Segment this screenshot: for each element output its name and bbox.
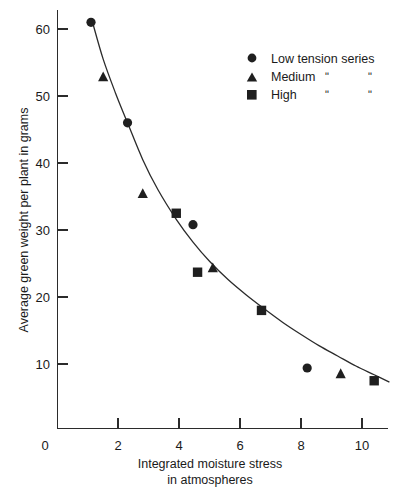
triangle-marker (138, 188, 148, 198)
y-axis-title: Average green weight per plant in grams (17, 108, 31, 333)
legend-triangle-marker (247, 72, 257, 81)
legend-ditto-high-2: ʺ (368, 88, 372, 100)
square-marker (257, 306, 266, 315)
series-1-markers (98, 72, 346, 379)
triangle-marker (208, 263, 218, 273)
legend-square-marker (247, 90, 257, 100)
x-axis-ticks (118, 418, 362, 429)
y-tick-label-60: 60 (36, 22, 50, 37)
legend-label-medium: Medium (271, 70, 315, 84)
triangle-marker (336, 368, 346, 378)
legend-circle-marker (248, 54, 257, 63)
x-axis-title-line2: in atmospheres (167, 473, 252, 487)
x-axis-title-line1: Integrated moisture stress (138, 457, 283, 471)
y-axis-ticks (58, 29, 69, 364)
series-2-markers (172, 209, 379, 386)
x-tick-label-0: 0 (41, 438, 48, 453)
circle-marker (123, 118, 132, 127)
circle-marker (303, 363, 312, 372)
data-markers-group (86, 18, 378, 386)
x-tick-label-4: 4 (175, 438, 182, 453)
legend: Low tension series Medium ʺ ʺ High ʺ ʺ (247, 52, 375, 102)
y-tick-label-30: 30 (36, 223, 50, 238)
x-tick-label-8: 8 (297, 438, 304, 453)
square-marker (369, 376, 378, 385)
square-marker (172, 209, 181, 218)
y-tick-label-20: 20 (36, 290, 50, 305)
x-axis-tick-labels: 0 2 4 6 8 10 (41, 438, 369, 453)
chart-figure: 60 50 40 30 20 10 0 2 4 6 8 10 Average g… (0, 0, 393, 487)
legend-label-high: High (271, 88, 297, 102)
fit-curve (93, 22, 390, 382)
y-tick-label-10: 10 (36, 357, 50, 372)
axis-group (58, 10, 389, 429)
legend-ditto-medium-2: ʺ (368, 70, 372, 82)
legend-ditto-medium-1: ʺ (325, 70, 329, 82)
y-tick-label-50: 50 (36, 89, 50, 104)
x-tick-label-6: 6 (236, 438, 243, 453)
circle-marker (86, 18, 95, 27)
x-tick-label-2: 2 (114, 438, 121, 453)
circle-marker (188, 220, 197, 229)
square-marker (193, 268, 202, 277)
y-tick-label-40: 40 (36, 156, 50, 171)
triangle-marker (98, 72, 108, 82)
x-tick-label-10: 10 (355, 438, 369, 453)
axis-lines (58, 10, 389, 429)
legend-ditto-high-1: ʺ (325, 88, 329, 100)
legend-label-low: Low tension series (271, 52, 375, 66)
chart-canvas: 60 50 40 30 20 10 0 2 4 6 8 10 Average g… (0, 0, 393, 487)
y-axis-tick-labels: 60 50 40 30 20 10 (36, 22, 50, 372)
